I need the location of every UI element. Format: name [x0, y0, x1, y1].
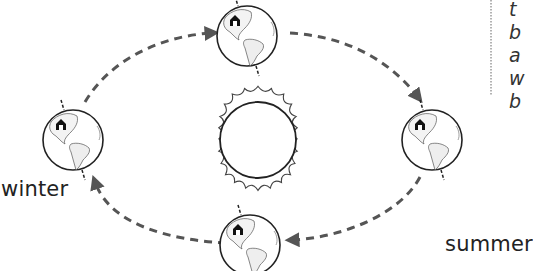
earth-bottom-icon [220, 205, 280, 271]
side-text-line: t [509, 0, 525, 21]
side-text-line: a [509, 44, 525, 67]
summer-label: summer [445, 232, 533, 256]
arrow-top-to-summer [290, 33, 418, 97]
side-text-line: w [509, 67, 525, 90]
winter-label: winter [1, 177, 68, 201]
earth-left-icon [43, 100, 103, 180]
side-text-cutoff: t b a w b [509, 0, 525, 113]
side-text-line: b [509, 21, 525, 44]
side-text-line: b [509, 90, 525, 113]
sun-icon [219, 86, 297, 190]
arrow-winter-to-top [85, 33, 212, 102]
arrow-summer-to-bottom [292, 177, 420, 240]
earth-right-icon [402, 100, 462, 180]
earth-top-icon [217, 0, 277, 76]
arrow-bottom-to-winter [95, 182, 226, 243]
